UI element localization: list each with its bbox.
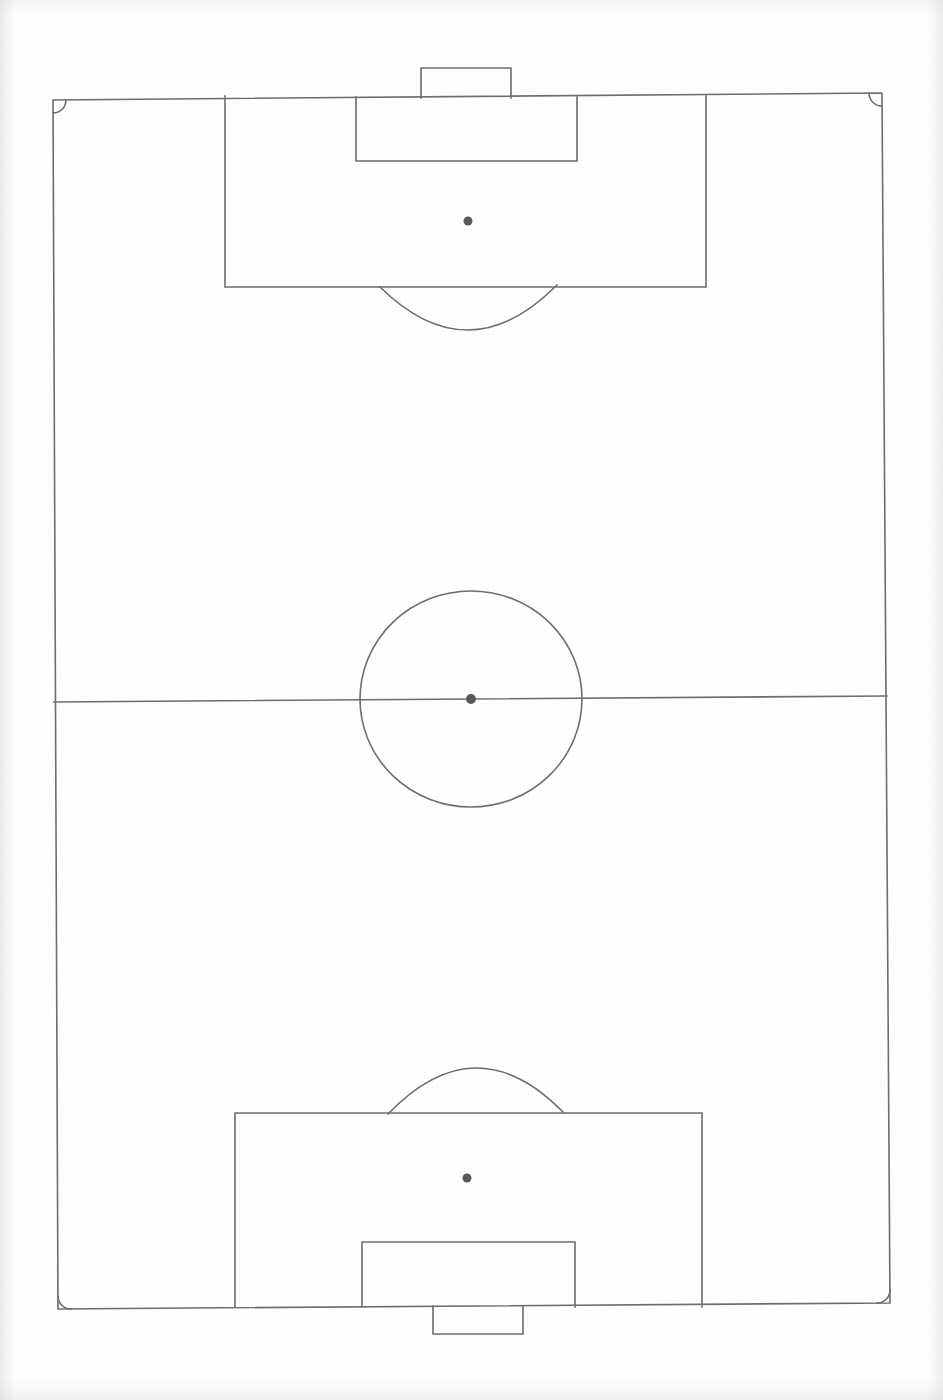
bottom-penalty-spot (463, 1174, 472, 1183)
pitch-diagram-canvas: Soccer Field Diagram (0, 0, 943, 1400)
center-spot (466, 694, 476, 704)
soccer-pitch-svg (0, 0, 943, 1400)
top-penalty-spot (464, 217, 473, 226)
